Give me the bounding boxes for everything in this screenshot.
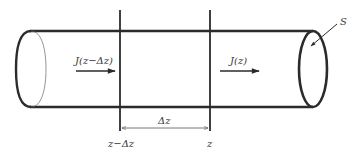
cross-section-ellipse [299,31,327,107]
position-right-label: z [207,139,212,149]
cross-section-label: S [340,17,347,27]
tube-diagram [0,0,359,155]
tube-left-end-outer [16,31,31,107]
position-left-label: z−Δz [108,139,134,149]
flux-out-label: J(z) [230,56,247,66]
flux-in-label: J(z−Δz) [75,56,113,66]
delta-z-label: Δz [158,116,171,126]
tube-left-end-inner [31,31,46,107]
tube-body [16,31,327,107]
